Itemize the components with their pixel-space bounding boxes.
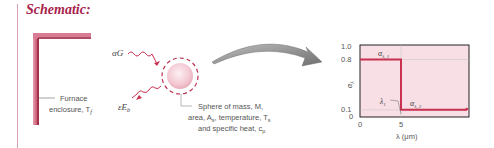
y-tick-0-8: 0.8 [341, 55, 351, 64]
incoming-wave-icon [128, 52, 156, 62]
furnace-label-2: enclosure, Tf [49, 105, 93, 115]
schematic-diagram: Furnace enclosure, Tf αG εEb Sphere of m… [0, 0, 494, 148]
x-tick-5: 5 [399, 120, 403, 129]
sphere-desc-1: Sphere of mass, M, [198, 102, 263, 111]
outgoing-arrowhead-icon [136, 95, 142, 100]
sphere-desc-3: and specific heat, cp [198, 124, 265, 134]
y-axis-label: αλ [345, 81, 355, 88]
outgoing-wave-icon [132, 86, 161, 98]
sphere [167, 63, 193, 89]
y-tick-1: 1.0 [341, 42, 351, 51]
curved-arrow-icon [212, 44, 322, 66]
x-axis-label: λ (μm) [396, 132, 418, 141]
incoming-radiation-label: αG [112, 48, 124, 58]
y-tick-0: 0 [349, 112, 353, 121]
furnace-label: Furnace [60, 94, 88, 103]
incoming-arrowhead-icon [154, 61, 160, 66]
x-tick-0: 0 [358, 120, 362, 129]
sphere-desc-2: area, As, temperature, Ts [188, 113, 271, 123]
outgoing-emission-label: εEb [118, 102, 130, 113]
